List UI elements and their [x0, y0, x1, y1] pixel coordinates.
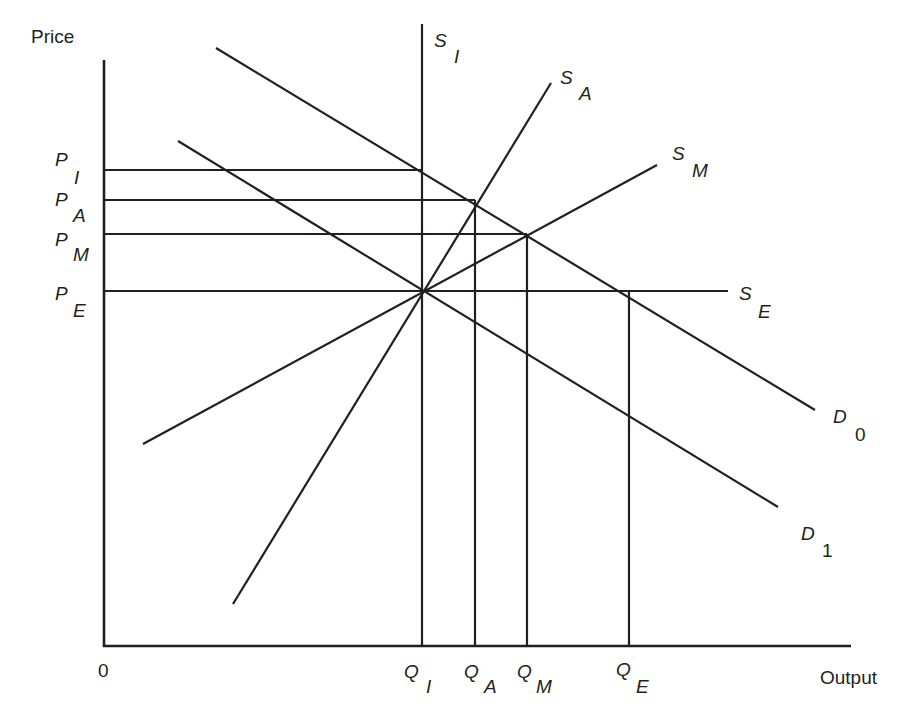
curve-label-se: S E — [739, 283, 771, 322]
quantity-label-QM: Q M — [517, 661, 552, 697]
y-axis-label: Price — [31, 26, 74, 47]
svg-text:D: D — [833, 406, 847, 427]
svg-text:Q: Q — [404, 661, 419, 682]
svg-text:I: I — [74, 167, 80, 188]
supply-curve-sm — [143, 165, 657, 444]
svg-text:A: A — [578, 83, 592, 104]
svg-text:Q: Q — [464, 661, 479, 682]
svg-text:P: P — [55, 283, 68, 304]
svg-text:Q: Q — [517, 661, 532, 682]
supply-demand-diagram: Price Output 0 P I P A P M P E — [0, 0, 912, 713]
svg-text:M: M — [692, 160, 708, 181]
svg-text:E: E — [73, 300, 86, 321]
svg-text:S: S — [560, 67, 573, 88]
svg-text:I: I — [454, 46, 460, 67]
svg-text:M: M — [536, 676, 552, 697]
svg-text:P: P — [55, 189, 68, 210]
svg-text:Q: Q — [616, 659, 631, 680]
origin-label: 0 — [98, 660, 109, 681]
curve-label-d0: D 0 — [833, 406, 866, 445]
svg-text:I: I — [426, 676, 432, 697]
curve-label-sm: S M — [672, 143, 708, 181]
quantity-label-QI: Q I — [404, 661, 432, 697]
supply-curve-sa — [233, 83, 551, 604]
svg-text:S: S — [672, 143, 685, 164]
svg-text:E: E — [758, 301, 771, 322]
svg-text:P: P — [55, 229, 68, 250]
svg-text:0: 0 — [855, 424, 866, 445]
svg-text:D: D — [801, 523, 815, 544]
price-label-pm: P M — [55, 229, 89, 265]
price-label-pe: P E — [55, 283, 86, 321]
demand-curve-d1 — [178, 141, 778, 507]
quantity-label-QA: Q A — [464, 661, 497, 697]
svg-text:1: 1 — [822, 540, 833, 561]
curve-label-sa: S A — [560, 67, 592, 104]
svg-text:M: M — [73, 244, 89, 265]
price-label-pi: P I — [55, 149, 80, 188]
svg-text:A: A — [483, 676, 497, 697]
svg-text:S: S — [739, 283, 752, 304]
svg-text:S: S — [434, 30, 447, 51]
price-label-pa: P A — [55, 189, 86, 226]
curve-label-d1: D 1 — [801, 523, 833, 561]
svg-text:P: P — [55, 149, 68, 170]
svg-text:E: E — [636, 676, 649, 697]
curve-label-si: S I — [434, 30, 460, 67]
quantity-label-QE: Q E — [616, 659, 649, 697]
x-axis-label: Output — [820, 667, 878, 688]
svg-text:A: A — [72, 205, 86, 226]
